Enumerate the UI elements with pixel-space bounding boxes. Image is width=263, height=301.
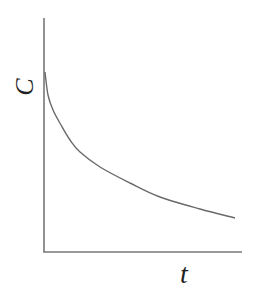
x-axis-label: t [174,259,194,289]
decay-curve [45,72,235,218]
chart-canvas [0,0,263,301]
y-axis-label: C [13,76,37,98]
